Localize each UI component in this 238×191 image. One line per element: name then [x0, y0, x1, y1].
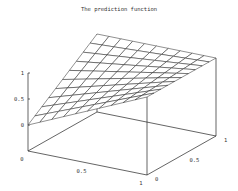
- surface-plot: The prediction function 00.5100.5100.51: [0, 0, 238, 191]
- z-tick-label: 0.5: [14, 96, 24, 102]
- x-tick-label: 0.5: [77, 168, 87, 174]
- x-tick-label: 1: [139, 180, 142, 186]
- surface-mesh: [28, 34, 216, 125]
- x-tick-label: 0: [20, 156, 23, 162]
- y-tick-label: 0.5: [190, 157, 200, 163]
- z-tick-label: 1: [21, 70, 24, 76]
- chart-title: The prediction function: [81, 6, 157, 13]
- z-tick-label: 0: [21, 122, 24, 128]
- y-tick-label: 0: [155, 176, 158, 182]
- y-tick-label: 1: [224, 137, 227, 143]
